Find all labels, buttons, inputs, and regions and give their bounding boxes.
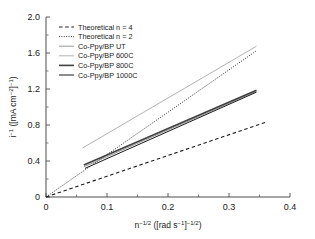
x-axis-ticks xyxy=(46,193,290,197)
series-line-5 xyxy=(85,92,256,168)
y-axis-ticks xyxy=(46,17,50,197)
y-tick-label-2: 0.8 xyxy=(27,120,40,130)
legend-label-2: Co-Ppy/BP UT xyxy=(78,42,126,51)
svg-text:n−1/2 ([rad s−1]−1/2): n−1/2 ([rad s−1]−1/2) xyxy=(135,220,202,230)
x-tick-label-4: 0.4 xyxy=(284,202,297,212)
y-axis-title: i−1 ([mA cm−2]−1) xyxy=(8,76,18,137)
series-line-4 xyxy=(84,90,257,165)
legend-label-1: Theoretical n = 2 xyxy=(78,32,133,41)
y-tick-label-4: 1.6 xyxy=(27,48,40,58)
y-tick-label-3: 1.2 xyxy=(27,84,40,94)
x-axis-tick-labels: 00.10.20.30.4 xyxy=(43,202,296,212)
legend-label-3: Co-Ppy/BP 600C xyxy=(78,51,133,60)
plot-canvas: 00.40.81.21.62.0 00.10.20.30.4 Theoretic… xyxy=(0,0,315,239)
legend-label-4: Co-Ppy/BP 800C xyxy=(78,61,133,70)
y-tick-label-0: 0 xyxy=(35,192,40,202)
svg-text:i−1 ([mA cm−2]−1): i−1 ([mA cm−2]−1) xyxy=(8,76,18,137)
chart-figure: 00.40.81.21.62.0 00.10.20.30.4 Theoretic… xyxy=(0,0,315,239)
series-line-2 xyxy=(84,91,257,167)
x-tick-label-3: 0.3 xyxy=(223,202,236,212)
y-axis-tick-labels: 00.40.81.21.62.0 xyxy=(27,12,40,202)
legend-label-5: Co-Ppy/BP 1000C xyxy=(78,71,138,80)
chart-legend: Theoretical n = 4Theoretical n = 2Co-Ppy… xyxy=(59,23,138,80)
x-tick-label-0: 0 xyxy=(43,202,48,212)
legend-label-0: Theoretical n = 4 xyxy=(78,23,133,32)
x-axis-title: n−1/2 ([rad s−1]−1/2) xyxy=(135,220,202,230)
y-tick-label-5: 2.0 xyxy=(27,12,40,22)
y-tick-label-1: 0.4 xyxy=(27,156,40,166)
x-tick-label-1: 0.1 xyxy=(101,202,114,212)
x-tick-label-2: 0.2 xyxy=(162,202,175,212)
